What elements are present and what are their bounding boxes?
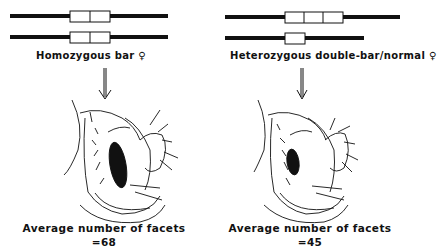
- right-result-label: Average number of facets: [212, 222, 408, 234]
- right-chromosome-bottom: [225, 33, 364, 44]
- right-chromosome-top: [225, 12, 400, 23]
- right-panel-title: Heterozygous double-bar/normal ♀: [230, 50, 437, 61]
- left-panel-title: Homozygous bar ♀: [36, 50, 146, 61]
- left-result-label: Average number of facets: [6, 222, 202, 234]
- left-arrow-icon: [99, 68, 111, 99]
- left-fly-head-illustration: [64, 100, 178, 223]
- right-arrow-icon: [297, 68, 307, 99]
- right-fly-head-illustration: [254, 100, 358, 223]
- right-result-value: =45: [212, 236, 408, 248]
- left-chromosome-top: [10, 11, 168, 22]
- left-result-value: =68: [6, 236, 202, 248]
- left-chromosome-bottom: [10, 32, 168, 43]
